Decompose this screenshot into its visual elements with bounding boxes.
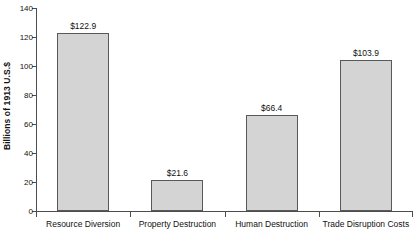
bar: [340, 60, 392, 211]
x-axis-tick-mark: [412, 212, 413, 217]
bar: [151, 180, 203, 211]
plot-area: 020406080100120140 $122.9$21.6$66.4$103.…: [36, 8, 413, 211]
bar: [246, 115, 298, 211]
y-axis-tick-label: 60: [24, 120, 33, 129]
y-axis-tick-label: 40: [24, 149, 33, 158]
x-axis-tick-mark: [225, 212, 226, 217]
y-axis-title-text: Billions of 1913 U.S.$: [2, 62, 12, 150]
x-axis-tick-mark: [36, 212, 37, 217]
x-axis-category-label: Trade Disruption Costs: [306, 219, 415, 229]
bar: [57, 33, 109, 211]
y-axis-tick-label: 80: [24, 91, 33, 100]
x-axis-tick-mark: [319, 212, 320, 217]
y-axis-tick-label: 100: [20, 62, 33, 71]
y-axis-tick-label: 0: [29, 207, 33, 216]
y-axis-line: [36, 8, 37, 211]
y-axis-tick-label: 140: [20, 4, 33, 13]
y-axis-tick-label: 120: [20, 33, 33, 42]
bar-value-label: $66.4: [232, 103, 312, 113]
y-axis-title: Billions of 1913 U.S.$: [0, 0, 14, 212]
bar-value-label: $21.6: [137, 168, 217, 178]
bar-chart: Billions of 1913 U.S.$ 02040608010012014…: [0, 0, 415, 240]
bar-value-label: $122.9: [43, 21, 123, 31]
bar-value-label: $103.9: [326, 48, 406, 58]
y-axis-tick-label: 20: [24, 178, 33, 187]
x-axis-tick-mark: [130, 212, 131, 217]
